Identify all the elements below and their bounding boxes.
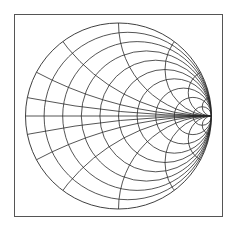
reactance-arc xyxy=(165,116,239,209)
reactance-arc xyxy=(119,0,240,116)
smith-chart-grid xyxy=(0,0,239,228)
reactance-arc xyxy=(119,116,240,228)
reactance-arc xyxy=(26,116,240,228)
smith-chart xyxy=(0,0,239,228)
reactance-arc xyxy=(165,23,239,116)
reactance-arc xyxy=(0,0,239,116)
reactance-arc xyxy=(0,116,239,228)
reactance-arc xyxy=(0,0,239,116)
